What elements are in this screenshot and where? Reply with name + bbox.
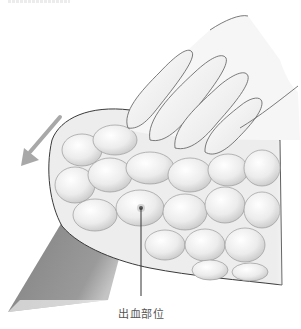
medical-illustration bbox=[0, 0, 301, 329]
bleeding-site-label: 出血部位 bbox=[118, 305, 164, 321]
hand bbox=[127, 16, 300, 155]
